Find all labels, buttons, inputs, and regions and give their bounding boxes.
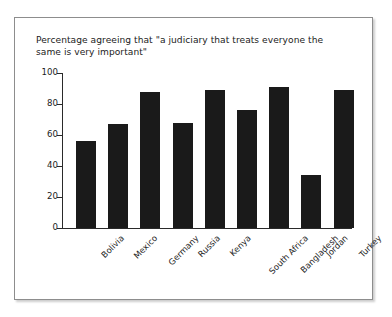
bar-germany (140, 92, 160, 228)
bar-jordan (301, 175, 321, 228)
bar-russia (173, 123, 193, 228)
bar-south-africa (237, 110, 257, 228)
bar-bangladesh (269, 87, 289, 228)
bar-bolivia (76, 141, 96, 228)
y-tick-label: 0 (53, 222, 58, 232)
y-tick-label: 100 (42, 67, 58, 77)
y-tick-label: 60 (47, 129, 58, 139)
y-axis-line (62, 73, 63, 229)
bar-kenya (205, 90, 225, 228)
x-label-bolivia: Bolivia (99, 233, 126, 260)
x-axis-line (62, 228, 352, 229)
x-label-turkey: Turkey (357, 233, 383, 259)
x-label-kenya: Kenya (227, 233, 252, 258)
chart-frame: Percentage agreeing that "a judiciary th… (14, 17, 373, 300)
y-tick-label: 40 (47, 160, 58, 170)
y-tick-label: 20 (47, 191, 58, 201)
x-label-russia: Russia (195, 233, 221, 259)
x-label-mexico: Mexico (132, 233, 160, 261)
y-tick-label: 80 (47, 98, 58, 108)
bar-turkey (334, 90, 354, 228)
chart-title: Percentage agreeing that "a judiciary th… (36, 34, 346, 58)
plot-area: 020406080100 BoliviaMexicoGermanyRussiaK… (62, 73, 352, 228)
bar-mexico (108, 124, 128, 228)
